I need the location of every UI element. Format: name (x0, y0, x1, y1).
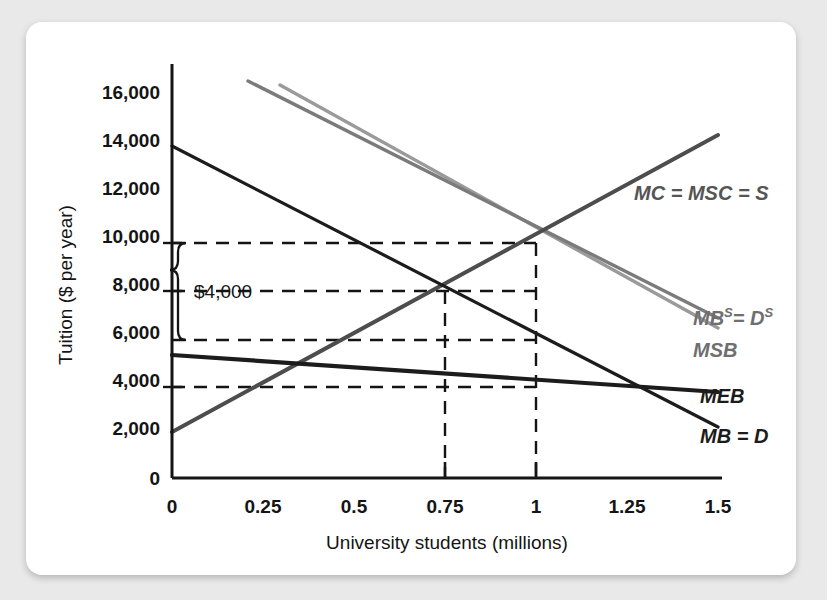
x-axis-ticks (445, 462, 536, 478)
axis-lines (172, 64, 722, 478)
curve-label-meb: MEB (700, 385, 744, 407)
y-tick-label: 16,000 (102, 82, 160, 103)
x-tick-label: 1 (531, 496, 542, 517)
x-tick-label: 0.75 (427, 496, 464, 517)
y-tick-label: 10,000 (102, 226, 160, 247)
svg-text:MBS= DS: MBS= DS (693, 305, 773, 329)
curve-label-mbs-main: MB (693, 307, 724, 329)
y-tick-label: 8,000 (112, 274, 160, 295)
curve-label-msb: MSB (693, 339, 737, 361)
curve-label-mbs-mid: = D (733, 307, 765, 329)
economics-externality-chart: 16,000 14,000 12,000 10,000 8,000 6,000 … (0, 0, 827, 600)
y-tick-label: 12,000 (102, 178, 160, 199)
y-tick-label: 4,000 (112, 370, 160, 391)
y-tick-label: 14,000 (102, 130, 160, 151)
curve-label-mc-msc-s: MC = MSC = S (634, 182, 769, 204)
y-axis-title: Tuition ($ per year) (55, 205, 76, 365)
x-axis-tick-labels: 0 0.25 0.5 0.75 1 1.25 1.5 (167, 496, 732, 517)
curve-label-mbs-sup2: S (764, 305, 773, 320)
x-axis-title: University students (millions) (326, 532, 568, 553)
y-tick-label: 0 (149, 468, 160, 489)
y-tick-label: 6,000 (112, 322, 160, 343)
x-tick-label: 0 (167, 496, 178, 517)
x-tick-label: 1.25 (609, 496, 646, 517)
curve-label-mbs-ds: MBS= DS (693, 305, 773, 329)
brace-label: $4,000 (194, 281, 252, 302)
x-tick-label: 0.5 (341, 496, 368, 517)
x-tick-label: 1.5 (705, 496, 732, 517)
y-tick-label: 2,000 (112, 418, 160, 439)
curve-label-mbs-sup1: S (724, 305, 733, 320)
y-axis-tick-labels: 16,000 14,000 12,000 10,000 8,000 6,000 … (102, 82, 160, 489)
chart-stage: 16,000 14,000 12,000 10,000 8,000 6,000 … (0, 0, 827, 600)
curve-label-mb-d: MB = D (700, 425, 768, 447)
x-tick-label: 0.25 (245, 496, 282, 517)
